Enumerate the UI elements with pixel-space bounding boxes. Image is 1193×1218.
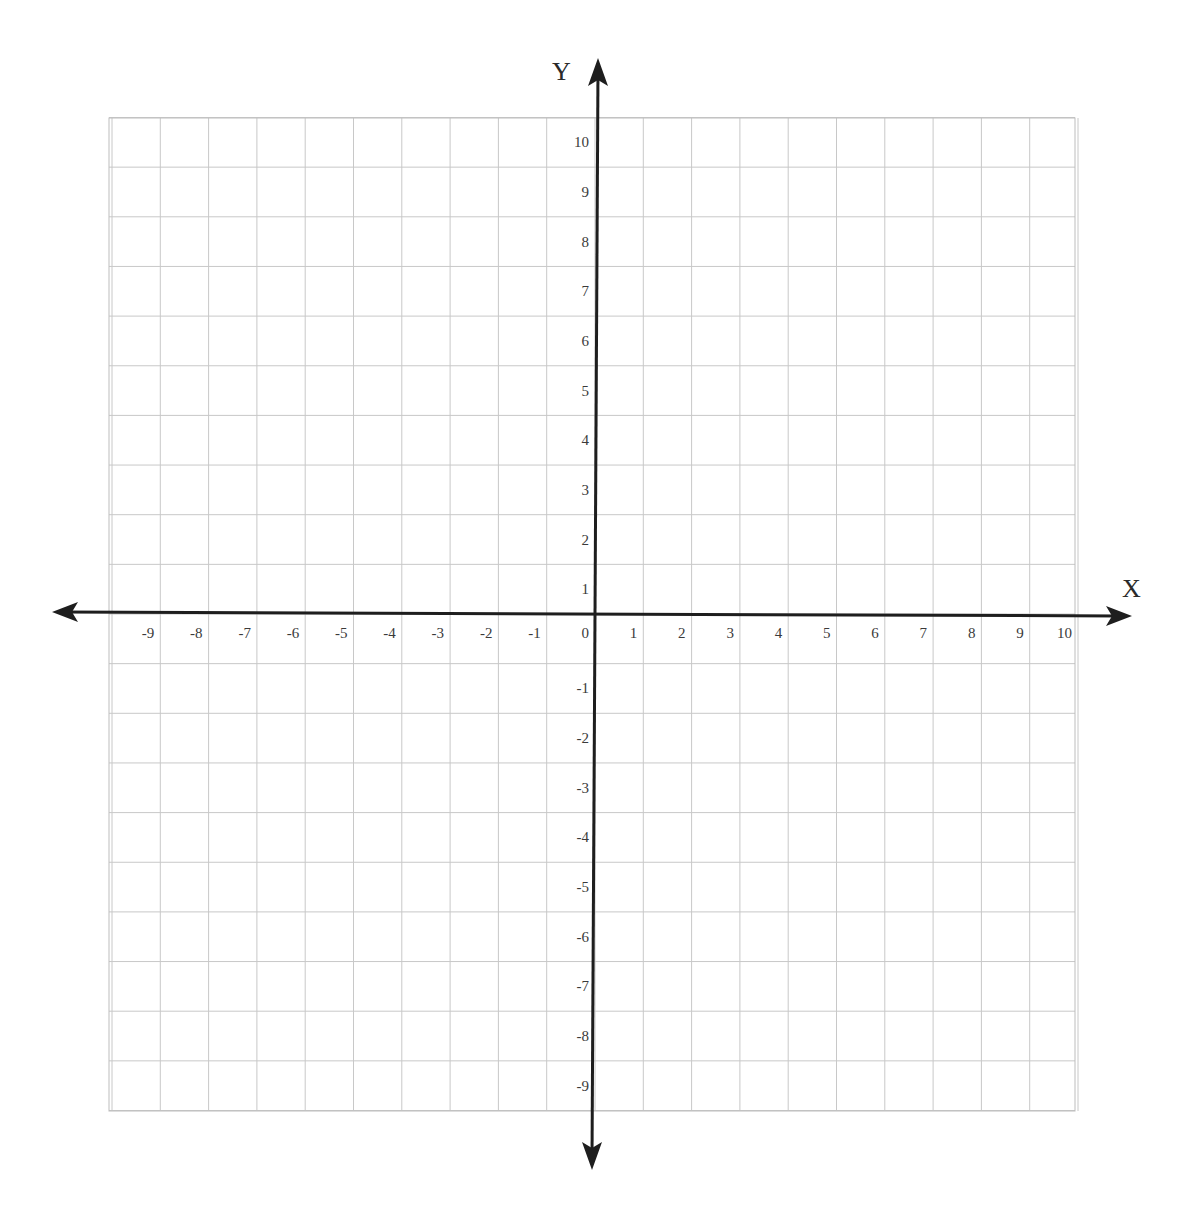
y-axis-title: Y: [552, 57, 571, 86]
x-tick-label: 10: [1057, 625, 1072, 641]
x-tick-label: 7: [920, 625, 928, 641]
x-tick-label: 8: [968, 625, 976, 641]
x-tick-label: 3: [726, 625, 734, 641]
y-tick-label: 1: [582, 581, 590, 597]
x-tick-label: 9: [1016, 625, 1024, 641]
x-tick-label: -6: [287, 625, 300, 641]
x-tick-label: 5: [823, 625, 831, 641]
y-tick-label: 10: [574, 134, 589, 150]
y-tick-label: -3: [577, 780, 590, 796]
y-tick-label: -4: [577, 829, 590, 845]
x-tick-label: 4: [775, 625, 783, 641]
x-tick-label: -2: [480, 625, 493, 641]
x-tick-label: -8: [190, 625, 203, 641]
y-tick-label: 9: [582, 184, 590, 200]
x-tick-label: -9: [142, 625, 155, 641]
x-tick-label: -1: [528, 625, 541, 641]
y-tick-label: 6: [582, 333, 590, 349]
x-tick-label: 0: [582, 625, 590, 641]
x-tick-labels: -9-8-7-6-5-4-3-2-1012345678910: [142, 625, 1072, 641]
y-tick-label: -6: [577, 929, 590, 945]
y-tick-label: -8: [577, 1028, 590, 1044]
x-tick-label: -5: [335, 625, 348, 641]
x-tick-label: 1: [630, 625, 638, 641]
y-tick-label: -5: [577, 879, 590, 895]
y-tick-label: 8: [582, 234, 590, 250]
x-axis-line: [62, 612, 1120, 616]
y-tick-label: -1: [577, 680, 590, 696]
axes: [52, 58, 1132, 1170]
y-tick-label: 4: [582, 432, 590, 448]
y-tick-label: 7: [582, 283, 590, 299]
y-tick-label: 2: [582, 532, 590, 548]
y-tick-label: -7: [577, 978, 590, 994]
x-tick-label: -4: [383, 625, 396, 641]
y-tick-label: -2: [577, 730, 590, 746]
x-axis-title: X: [1122, 574, 1141, 603]
y-tick-label: 3: [582, 482, 590, 498]
x-tick-label: -7: [238, 625, 251, 641]
x-tick-label: -3: [432, 625, 445, 641]
coordinate-plane: X Y -9-8-7-6-5-4-3-2-1012345678910109876…: [0, 0, 1193, 1218]
x-tick-label: 2: [678, 625, 686, 641]
x-tick-label: 6: [871, 625, 879, 641]
y-tick-label: 5: [582, 383, 590, 399]
y-tick-label: -9: [577, 1078, 590, 1094]
